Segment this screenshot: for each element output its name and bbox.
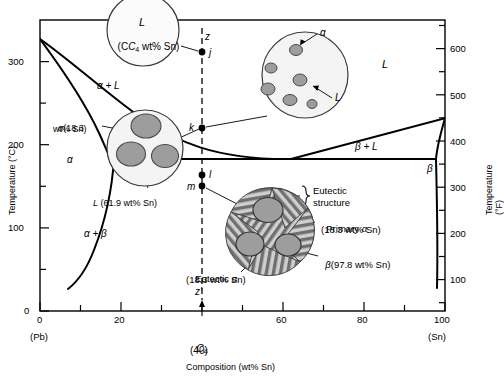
y-axis-left-ticks [40,62,49,311]
bubble-j-composition-label: (CC4 wt% Sn) [112,29,179,54]
y-right-tick-600: 600 [450,43,466,54]
bubble-k-outer-liquid-label: L [335,92,341,104]
x-tick-20: 20 [114,314,125,325]
point-label-j: j [209,47,211,59]
composition-marker-value: (40) [190,345,208,357]
curve-alpha-solvus [68,159,114,289]
path-label-z-prime: z' [195,286,202,298]
point-l [199,172,206,179]
y-left-tick-0: 0 [24,305,29,316]
eutectic-structure-callout-line1: Eutectic [313,186,347,197]
point-label-l: l [209,169,211,181]
bubble-k-alpha-callout-line2: wt% Sn) [53,124,87,134]
region-label-L: L [382,58,388,71]
x-end-label-pb: (Pb) [30,331,48,342]
x-axis-title: Composition (wt% Sn) [186,362,275,372]
point-label-k: k [189,122,194,134]
x-tick-100: 100 [434,314,450,325]
x-tick-60: 60 [276,314,287,325]
y-left-tick-100: 100 [8,222,24,233]
bubble-j-comp-post: wt% Sn) [139,41,179,52]
bubble-k-liquid-callout-text: (61.9 wt% Sn) [98,198,157,208]
region-label-beta: β [427,163,433,175]
microstructure-bubble-k-outer [261,32,348,118]
region-label-alpha: α [67,154,73,166]
beta-composition-callout-text: (97.8 wt% Sn) [331,259,391,270]
point-label-m: m [187,181,195,193]
x-end-label-sn: (Sn) [428,331,446,342]
point-j [199,49,206,56]
y-right-tick-500: 500 [450,90,466,101]
curve-beta-solidus [436,118,445,159]
y-left-tick-300: 300 [8,56,24,67]
y-right-tick-400: 400 [450,136,466,147]
microstructure-bubble-k-inner [107,110,183,186]
y-right-tick-200: 200 [450,228,466,239]
curve-alpha-solidus [40,39,114,161]
y-axis-left-title: Temperature (°C) [7,146,17,215]
y-right-tick-100: 100 [450,274,466,285]
bubble-j-comp-pre: (C [118,41,129,52]
path-label-z: z [205,31,210,43]
eutectic-structure-callout-line2: structure [313,198,350,209]
region-label-beta-L: β + L [355,141,378,153]
beta-composition-callout: β(97.8 wt% Sn) [320,249,390,271]
region-label-alpha-L: α + L [97,80,120,92]
x-tick-0: 0 [37,314,42,325]
point-m [199,183,206,190]
x-axis-ticks [40,302,445,311]
point-k [199,125,206,132]
bubble-j-phase-label: L [139,16,145,29]
y-right-tick-300: 300 [450,182,466,193]
y-axis-right-title: Temperature (°F) [484,164,504,215]
curve-beta-liquidus [291,118,445,159]
bubble-k-outer-alpha-label: α [320,27,326,39]
primary-alpha-callout-line2: (18.3 wt% Sn) [321,225,381,236]
x-tick-80: 80 [357,314,368,325]
eutectic-alpha-callout-line2: (18.3 wt% Sn) [186,275,246,286]
bubble-k-liquid-callout: L (61.9 wt% Sn) [88,188,157,209]
region-label-alpha-beta: α + β [84,228,107,240]
curve-beta-solvus [436,159,437,288]
microstructure-bubble-m [225,188,314,276]
